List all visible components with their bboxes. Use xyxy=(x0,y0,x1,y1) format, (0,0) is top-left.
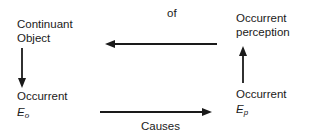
arrow-causes xyxy=(100,108,212,116)
arrow-down-left xyxy=(18,48,26,88)
arrow-up-right xyxy=(239,46,247,83)
arrow-of xyxy=(105,40,217,48)
arrows-layer xyxy=(0,0,318,137)
